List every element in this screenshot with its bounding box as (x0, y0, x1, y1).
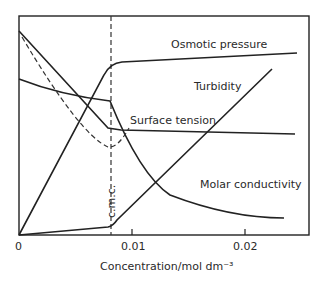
x-tick-0: 0 (15, 240, 22, 253)
x-tick-0-01: 0.01 (121, 240, 146, 253)
label-osmotic: Osmotic pressure (171, 38, 267, 51)
label-turbidity: Turbidity (193, 80, 242, 93)
chart: Osmotic pressure Turbidity Surface tensi… (0, 0, 322, 283)
label-cmc: c.m.c. (105, 185, 118, 218)
label-surface-tension: Surface tension (130, 114, 216, 127)
x-axis-label: Concentration/mol dm⁻³ (100, 260, 233, 273)
osmotic-pressure-curve (19, 53, 297, 235)
molar-conductivity-curve (19, 79, 284, 218)
turbidity-curve (19, 69, 272, 235)
label-molar-conductivity: Molar conductivity (200, 178, 302, 191)
x-tick-0-02: 0.02 (233, 240, 258, 253)
